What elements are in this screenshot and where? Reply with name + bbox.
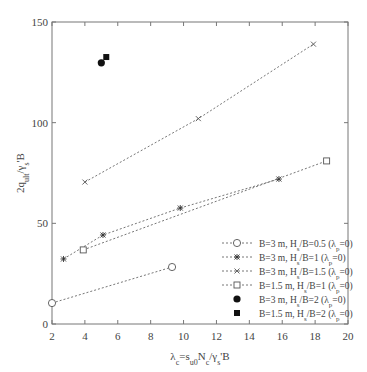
square-marker-icon — [234, 282, 240, 288]
y-tick-label: 100 — [32, 117, 49, 129]
legend-label: B=3 m, Hs/B=1.5 (λp=0) — [259, 267, 353, 281]
legend-item: B=3 m, Hs/B=1 (λp=0) — [222, 253, 346, 267]
circle-marker-icon — [48, 299, 55, 306]
y-tick-label: 150 — [32, 16, 49, 28]
y-axis-label: 2qult/γs'B — [14, 153, 31, 193]
x-tick-label: 10 — [178, 330, 190, 342]
x-tick-label: 18 — [310, 330, 322, 342]
star-marker-icon — [177, 205, 183, 211]
series-line — [52, 267, 172, 303]
plot-frame — [52, 22, 348, 324]
series-2 — [82, 42, 316, 185]
series-line — [64, 179, 279, 259]
series-4 — [98, 59, 105, 66]
x-tick-label: 8 — [148, 330, 154, 342]
chart: 2468101214161820050100150 B=3 m, Hs/B=0.… — [0, 0, 367, 372]
legend-label: B=3 m, Hs/B=2 (λp=0) — [259, 295, 346, 309]
legend-label: B=1.5 m, Hs/B=2 (λp=0) — [259, 309, 353, 323]
series-line — [83, 161, 326, 250]
legend-label: B=3 m, Hs/B=1 (λp=0) — [259, 253, 346, 267]
series-5 — [103, 54, 109, 60]
square-marker-icon — [80, 247, 86, 253]
x-marker-icon — [196, 116, 201, 121]
series-0 — [48, 263, 175, 306]
legend-item: B=1.5 m, Hs/B=1 (λp=0) — [222, 281, 353, 295]
x-tick-label: 2 — [49, 330, 55, 342]
x-marker-icon — [82, 180, 87, 185]
circle-marker-icon — [233, 239, 240, 246]
filled-square-marker-icon — [234, 310, 240, 316]
circle-marker-icon — [168, 263, 175, 270]
x-tick-label: 12 — [211, 330, 222, 342]
filled-circle-marker-icon — [233, 295, 240, 302]
star-marker-icon — [234, 254, 240, 260]
x-tick-label: 4 — [82, 330, 88, 342]
x-tick-label: 20 — [343, 330, 355, 342]
legend-item: B=3 m, Hs/B=0.5 (λp=0) — [222, 239, 353, 253]
star-marker-icon — [61, 256, 67, 262]
filled-circle-marker-icon — [98, 59, 105, 66]
legend-label: B=3 m, Hs/B=0.5 (λp=0) — [259, 239, 353, 253]
x-tick-label: 14 — [244, 330, 256, 342]
x-marker-icon — [311, 42, 316, 47]
y-tick-label: 0 — [43, 318, 49, 330]
y-tick-label: 50 — [37, 217, 49, 229]
filled-square-marker-icon — [103, 54, 109, 60]
x-tick-label: 6 — [115, 330, 121, 342]
legend: B=3 m, Hs/B=0.5 (λp=0)B=3 m, Hs/B=1 (λp=… — [222, 239, 353, 323]
legend-label: B=1.5 m, Hs/B=1 (λp=0) — [259, 281, 353, 295]
square-marker-icon — [324, 158, 330, 164]
legend-item: B=3 m, Hs/B=1.5 (λp=0) — [222, 267, 353, 281]
legend-item: B=3 m, Hs/B=2 (λp=0) — [233, 295, 345, 309]
x-axis-label: λc=su0Nc/γs'B — [170, 350, 229, 367]
star-marker-icon — [276, 176, 282, 182]
legend-item: B=1.5 m, Hs/B=2 (λp=0) — [234, 309, 353, 323]
series-line — [85, 44, 314, 182]
x-tick-label: 16 — [277, 330, 289, 342]
star-marker-icon — [100, 232, 106, 238]
axis-labels: λc=su0Nc/γs'B2qult/γs'B — [14, 153, 230, 366]
